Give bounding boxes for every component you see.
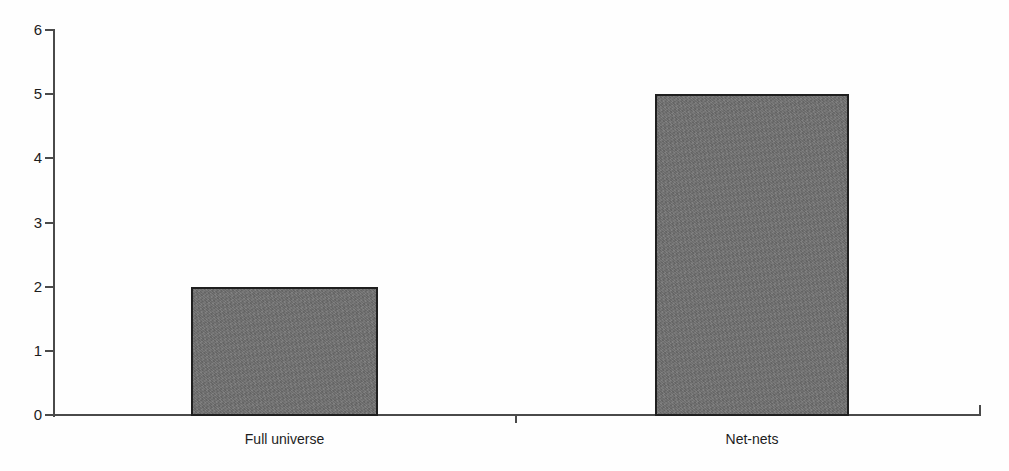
bar-1: [191, 287, 378, 416]
y-axis-tick-label: 0: [12, 407, 42, 422]
y-axis-tick-label: 4: [12, 150, 42, 165]
bar-chart: 0123456 Full universeNet-nets: [0, 0, 1009, 471]
y-axis-tick: [45, 286, 54, 288]
y-axis-tick-label: 5: [12, 86, 42, 101]
y-axis-tick: [45, 29, 54, 31]
y-axis-tick: [45, 222, 54, 224]
x-axis-end-cap: [979, 405, 981, 416]
bar-2: [655, 94, 849, 416]
y-axis-tick-label: 6: [12, 22, 42, 37]
y-axis-tick-label: 2: [12, 279, 42, 294]
y-axis-tick-label: 1: [12, 343, 42, 358]
y-axis-tick: [45, 350, 54, 352]
x-axis-category-label: Net-nets: [655, 431, 849, 448]
y-axis-tick-label: 3: [12, 215, 42, 230]
x-axis-category-label: Full universe: [191, 431, 378, 448]
y-axis-tick: [45, 93, 54, 95]
y-axis-tick: [45, 414, 54, 416]
y-axis-tick: [45, 157, 54, 159]
x-axis-tick-separator: [515, 414, 517, 423]
